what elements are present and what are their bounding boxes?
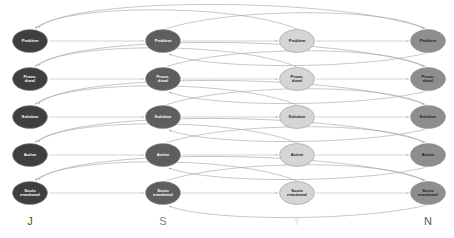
node-N-procedural[interactable]: Proce-dural (411, 68, 446, 91)
axis-label-N: N (424, 215, 432, 227)
node-S-procedural[interactable]: Proce-dural (146, 68, 181, 91)
node-label: Active (291, 152, 304, 157)
edge-arc-upper-forward (167, 165, 424, 181)
node-label: emotional (20, 192, 40, 197)
node-Y-active[interactable]: Active (280, 144, 315, 167)
node-Y-problem[interactable]: Problem (280, 30, 315, 53)
node-N-problem[interactable]: Problem (411, 30, 446, 53)
node-label: Active (422, 152, 435, 157)
node-label: Solution (155, 114, 172, 119)
node-label: Solution (420, 114, 437, 119)
node-label: dural (25, 78, 35, 83)
node-label: dural (158, 78, 168, 83)
node-J-problem[interactable]: Problem (13, 30, 48, 53)
edge-arc-lower (169, 168, 425, 180)
edge-arc-upper-long (35, 10, 297, 29)
transition-network-diagram: ProblemProblemProblemProblemProce-duralP… (0, 0, 454, 238)
node-label: dural (292, 78, 302, 83)
node-label: emotional (287, 192, 307, 197)
node-label: emotional (153, 192, 173, 197)
node-label: Problem (420, 38, 437, 43)
node-J-procedural[interactable]: Proce-dural (13, 68, 48, 91)
edge-arc-lower (169, 54, 425, 66)
edge-arc-lower (169, 92, 425, 104)
node-J-solution[interactable]: Solution (13, 106, 48, 129)
node-label: Solution (289, 114, 306, 119)
node-N-active[interactable]: Active (411, 144, 446, 167)
edge-arc-upper-forward (167, 89, 424, 105)
node-N-solution[interactable]: Solution (411, 106, 446, 129)
node-label: Problem (155, 38, 172, 43)
node-label: Active (24, 152, 37, 157)
node-label: dural (423, 78, 433, 83)
node-Y-socio-emotional[interactable]: Socioemotional (280, 182, 315, 205)
node-J-active[interactable]: Active (13, 144, 48, 167)
edge-arc-lower (169, 130, 425, 142)
node-Y-procedural[interactable]: Proce-dural (280, 68, 315, 91)
node-label: Problem (289, 38, 306, 43)
node-label: Problem (22, 38, 39, 43)
node-S-problem[interactable]: Problem (146, 30, 181, 53)
axis-label-S: S (159, 215, 166, 227)
edge-arc-upper-forward (167, 51, 424, 67)
node-S-socio-emotional[interactable]: Socioemotional (146, 182, 181, 205)
axis-label-Y: Y (293, 215, 301, 227)
axis-labels-layer: JSYN (27, 215, 432, 227)
node-label: emotional (418, 192, 438, 197)
diagram-canvas: ProblemProblemProblemProblemProce-duralP… (0, 0, 454, 238)
edge-arc-upper-forward (167, 13, 424, 29)
node-label: Active (157, 152, 170, 157)
node-N-socio-emotional[interactable]: Socioemotional (411, 182, 446, 205)
node-J-socio-emotional[interactable]: Socioemotional (13, 182, 48, 205)
node-S-solution[interactable]: Solution (146, 106, 181, 129)
edge-arc-upper-forward (167, 127, 424, 143)
node-label: Solution (22, 114, 39, 119)
axis-label-J: J (27, 215, 33, 227)
edges-layer (35, 4, 426, 217)
node-Y-solution[interactable]: Solution (280, 106, 315, 129)
node-S-active[interactable]: Active (146, 144, 181, 167)
